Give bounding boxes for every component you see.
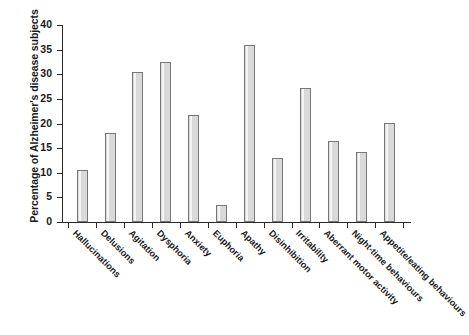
y-tick-label: 35: [0, 43, 52, 55]
x-tick-mark: [68, 223, 69, 228]
bar: [356, 152, 367, 222]
y-tick-label: 25: [0, 92, 52, 104]
y-tick-label: 0: [0, 215, 52, 227]
x-tick-label: Hallucinations: [71, 228, 122, 279]
x-tick-mark: [403, 223, 404, 228]
bar: [300, 88, 311, 222]
bar: [77, 170, 88, 222]
bar: [188, 115, 199, 222]
x-tick-mark: [375, 223, 376, 228]
bar: [328, 141, 339, 222]
bar-series: [62, 25, 411, 222]
y-tick-label: 5: [0, 190, 52, 202]
bar: [216, 205, 227, 222]
y-tick-label: 10: [0, 166, 52, 178]
bar: [272, 158, 283, 222]
bar: [132, 72, 143, 222]
y-tick-label: 20: [0, 117, 52, 129]
y-tick-mark: [57, 222, 62, 223]
y-tick-label: 40: [0, 18, 52, 30]
x-tick-mark: [236, 223, 237, 228]
bar: [105, 133, 116, 222]
bar: [384, 123, 395, 222]
bar: [160, 62, 171, 222]
x-tick-mark: [124, 223, 125, 228]
x-tick-mark: [292, 223, 293, 228]
x-tick-mark: [96, 223, 97, 228]
y-tick-label: 15: [0, 141, 52, 153]
x-tick-mark: [319, 223, 320, 228]
x-tick-mark: [152, 223, 153, 228]
x-tick-mark: [347, 223, 348, 228]
x-tick-mark: [264, 223, 265, 228]
y-tick-label: 30: [0, 67, 52, 79]
x-tick-mark: [180, 223, 181, 228]
x-tick-mark: [208, 223, 209, 228]
bar: [244, 45, 255, 222]
